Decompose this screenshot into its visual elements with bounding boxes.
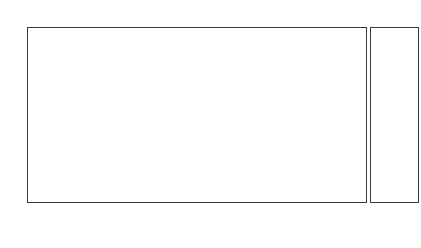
x-axis-labels [27,204,367,248]
chart-legend [370,27,419,203]
bar-series-group [27,27,367,203]
chart-container [0,0,421,248]
